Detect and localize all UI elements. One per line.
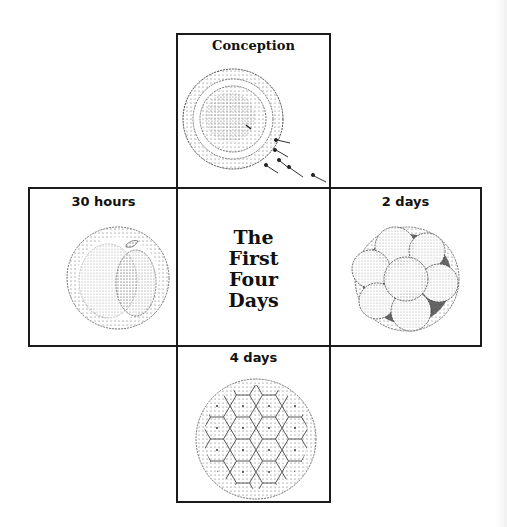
diagram-title: The First Four Days <box>178 227 329 311</box>
panel-2-days: 2 days <box>329 187 482 347</box>
egg-with-sperm-icon <box>178 57 329 187</box>
panel-4-days: 4 days <box>176 345 331 503</box>
panel-label-conception: Conception <box>178 38 329 53</box>
title-line-4: Days <box>178 290 329 311</box>
panel-label-30-hours: 30 hours <box>30 194 177 209</box>
multi-cell-embryo-icon <box>331 215 480 345</box>
page-edge <box>495 0 507 527</box>
morula-icon <box>178 373 329 503</box>
panel-30-hours: 30 hours <box>28 187 179 347</box>
title-line-1: The <box>178 227 329 248</box>
panel-title: The First Four Days <box>176 187 331 347</box>
title-line-2: First <box>178 248 329 269</box>
two-cell-embryo-icon <box>30 215 177 345</box>
panel-label-2-days: 2 days <box>331 194 480 209</box>
panel-label-4-days: 4 days <box>178 350 329 365</box>
panel-conception: Conception <box>176 33 331 189</box>
title-line-3: Four <box>178 269 329 290</box>
